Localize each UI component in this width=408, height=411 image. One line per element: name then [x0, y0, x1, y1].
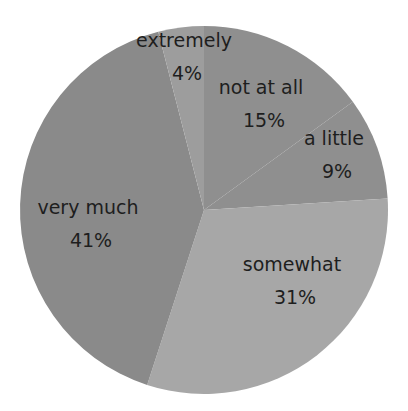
label-name: not at all	[219, 76, 304, 98]
label-pct: 31%	[274, 286, 316, 308]
pie-chart: not at all 15% a little 9% somewhat 31% …	[0, 0, 408, 411]
label-name: somewhat	[243, 253, 341, 275]
label-pct: 9%	[322, 160, 352, 182]
label-pct: 15%	[243, 109, 285, 131]
label-pct: 41%	[70, 229, 112, 251]
label-name: a little	[304, 127, 364, 149]
label-name: very much	[37, 196, 138, 218]
label-pct: 4%	[172, 62, 202, 84]
label-name: extremely	[136, 29, 232, 51]
